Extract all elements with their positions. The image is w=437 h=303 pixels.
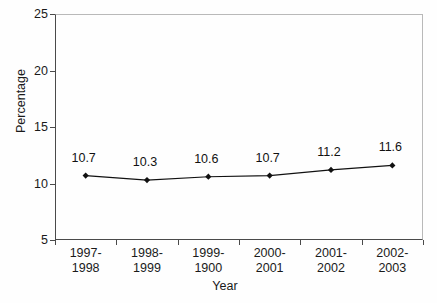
- x-tick-label: 1999-1900: [173, 246, 243, 275]
- x-tick-label: 1998-1999: [112, 246, 182, 275]
- x-tick-label-line: 1998-: [112, 246, 182, 261]
- y-tick-label: 15: [0, 120, 48, 134]
- x-tick-label-line: 2001: [235, 261, 305, 276]
- x-tick-mark: [362, 240, 363, 245]
- line-chart: Percentage 510152025 1997-19981998-19991…: [0, 0, 437, 303]
- x-tick-mark: [55, 240, 56, 245]
- y-tick-label: 20: [0, 64, 48, 78]
- x-tick-label: 1997-1998: [51, 246, 121, 275]
- data-point-label: 10.6: [183, 152, 229, 166]
- data-point-label: 10.7: [61, 151, 107, 165]
- data-point-label: 10.7: [245, 151, 291, 165]
- x-tick-label-line: 1998: [51, 261, 121, 276]
- x-tick-label-line: 1900: [173, 261, 243, 276]
- x-tick-mark: [300, 240, 301, 245]
- y-tick-mark: [50, 127, 55, 128]
- x-axis-title: Year: [175, 279, 275, 293]
- x-tick-label-line: 1997-: [51, 246, 121, 261]
- y-tick-label: 25: [0, 7, 48, 21]
- y-tick-label: 5: [0, 233, 48, 247]
- x-tick-mark: [239, 240, 240, 245]
- y-tick-mark: [50, 184, 55, 185]
- x-tick-label-line: 1999: [112, 261, 182, 276]
- y-tick-mark: [50, 14, 55, 15]
- x-tick-label-line: 2002: [296, 261, 366, 276]
- x-tick-label-line: 2002-: [357, 246, 427, 261]
- plot-area: [55, 14, 423, 240]
- x-tick-mark: [178, 240, 179, 245]
- y-tick-label: 10: [0, 177, 48, 191]
- y-tick-mark: [50, 71, 55, 72]
- x-tick-mark: [423, 240, 424, 245]
- x-tick-label: 2001-2002: [296, 246, 366, 275]
- x-tick-mark: [116, 240, 117, 245]
- data-point-label: 11.6: [367, 140, 413, 154]
- x-tick-label-line: 2003: [357, 261, 427, 276]
- x-tick-label: 2000-2001: [235, 246, 305, 275]
- x-tick-label-line: 2000-: [235, 246, 305, 261]
- x-tick-label-line: 2001-: [296, 246, 366, 261]
- x-tick-label-line: 1999-: [173, 246, 243, 261]
- x-tick-label: 2002-2003: [357, 246, 427, 275]
- data-point-label: 10.3: [122, 155, 168, 169]
- data-point-label: 11.2: [306, 145, 352, 159]
